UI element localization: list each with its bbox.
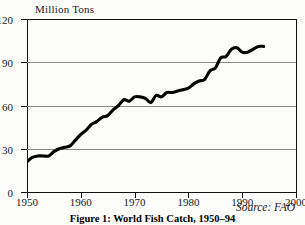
- plot-border-bottom: [27, 192, 296, 193]
- figure-world-fish-catch: Million Tons 0306090120 1950196019701980…: [0, 0, 305, 225]
- y-tick-label-60: 60: [2, 101, 13, 112]
- figure-caption: Figure 1: World Fish Catch, 1950–94: [0, 213, 305, 224]
- y-tick-label-120: 120: [0, 15, 13, 26]
- y-tick-label-0: 0: [8, 188, 14, 199]
- data-series-world-fish-catch: [27, 19, 296, 192]
- x-tick-label-1960: 1960: [70, 197, 92, 208]
- y-axis-unit-label: Million Tons: [35, 3, 94, 15]
- x-tick-label-1980: 1980: [177, 197, 199, 208]
- plot-border-right: [296, 19, 297, 192]
- plot-area: 0306090120 195019601970198019902000: [27, 19, 296, 192]
- x-tick-label-1950: 1950: [16, 197, 38, 208]
- source-note: Source: FAO: [236, 201, 295, 213]
- y-tick-label-90: 90: [2, 58, 13, 69]
- x-tick-label-1970: 1970: [124, 197, 146, 208]
- y-tick-label-30: 30: [2, 144, 13, 155]
